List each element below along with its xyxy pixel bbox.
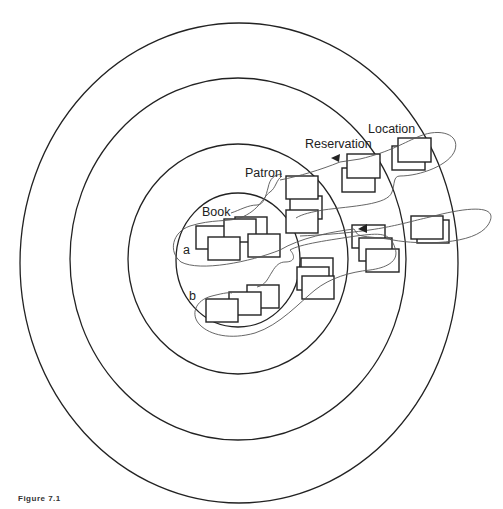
reservation-entity-group-upper <box>342 154 380 192</box>
location-entity-group-upper <box>392 138 431 170</box>
label-reservation: Reservation <box>305 137 372 151</box>
diagram-canvas: Book Patron Reservation Location a b <box>0 0 503 509</box>
label-location: Location <box>368 122 415 136</box>
book-entity-group-a <box>196 217 280 260</box>
figure-caption: Figure 7.1 <box>18 494 61 503</box>
arrowhead-reservation-icon <box>331 154 340 162</box>
book-entity-group-b <box>206 285 279 322</box>
reservation-entity-group-lower <box>352 225 399 272</box>
label-path-b: b <box>189 289 196 303</box>
patron-entity-group-upper <box>286 176 322 233</box>
patron-entity-group-lower <box>297 258 334 299</box>
label-path-a: a <box>183 243 190 257</box>
label-patron: Patron <box>245 166 282 180</box>
label-book: Book <box>202 205 231 219</box>
